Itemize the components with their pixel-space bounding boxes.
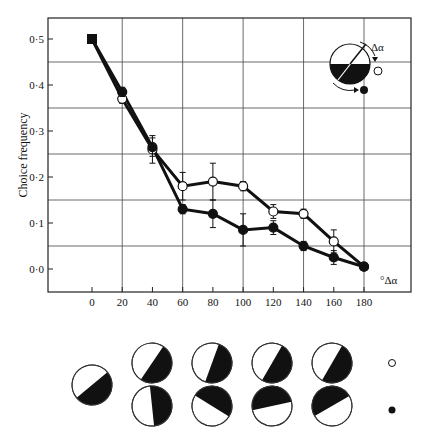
- legend-filled-circle-icon: [389, 407, 396, 414]
- figure: 0·00·10·20·30·40·5 020406080100120140160…: [0, 0, 425, 446]
- open-circle-marker: [329, 237, 338, 246]
- inset-label: Δα: [371, 41, 384, 53]
- open-row-pattern: [245, 336, 300, 391]
- filled-circle-marker: [148, 143, 157, 152]
- stimulus-patterns: [64, 335, 359, 433]
- x-tick-label: 0: [89, 296, 95, 308]
- filled-row-pattern: [130, 384, 174, 428]
- open-circle-marker: [239, 182, 248, 191]
- filled-circle-marker: [269, 223, 278, 232]
- data-series: [87, 34, 369, 271]
- x-tick-label: 40: [147, 296, 159, 308]
- y-tick-label: 0·4: [29, 79, 44, 91]
- x-tick-label: 140: [295, 296, 312, 308]
- y-tick-label: 0·0: [29, 263, 44, 275]
- filled-row-pattern: [184, 378, 239, 433]
- filled-circle-marker: [360, 262, 369, 271]
- inset-rotation-diagram: Δα: [330, 41, 384, 94]
- filled-circle-marker: [178, 205, 187, 214]
- x-tick-label: 180: [356, 296, 373, 308]
- open-row-pattern: [124, 335, 180, 391]
- x-axis-ticks: 020406080100120140160180: [89, 287, 373, 308]
- x-tick-label: 120: [265, 296, 282, 308]
- reference-pattern: [64, 357, 120, 413]
- open-circle-marker: [178, 182, 187, 191]
- legend-open-circle-icon: [389, 360, 396, 367]
- open-row-pattern: [186, 337, 237, 388]
- filled-circle-marker: [118, 87, 127, 96]
- x-tick-label: 20: [117, 296, 129, 308]
- filled-circle-marker: [208, 209, 217, 218]
- open-circle-icon: [374, 67, 382, 75]
- filled-circle-icon: [360, 86, 368, 94]
- x-tick-label: 100: [235, 296, 252, 308]
- x-tick-label: 60: [177, 296, 189, 308]
- x-tick-label: 80: [207, 296, 219, 308]
- open-circle-marker: [269, 207, 278, 216]
- x-tick-label: 160: [326, 296, 343, 308]
- y-tick-label: 0·1: [29, 217, 44, 229]
- filled-row-pattern: [305, 379, 360, 434]
- y-tick-label: 0·2: [29, 171, 44, 183]
- open-circle-marker: [299, 209, 308, 218]
- y-axis-label: Choice frequency: [16, 113, 30, 198]
- filled-circle-marker: [239, 225, 248, 234]
- y-tick-label: 0·5: [29, 33, 44, 45]
- x-axis-unit: °Δα: [380, 274, 397, 286]
- start-square-marker: [87, 34, 97, 44]
- open-circle-marker: [208, 177, 217, 186]
- open-row-pattern: [305, 336, 360, 391]
- filled-row-pattern: [248, 382, 295, 429]
- filled-circle-marker: [329, 253, 338, 262]
- y-tick-label: 0·3: [29, 125, 44, 137]
- filled-circle-marker: [299, 242, 308, 251]
